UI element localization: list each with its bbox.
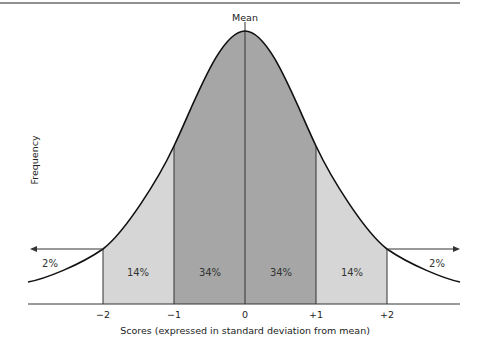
region-plus1-plus2 xyxy=(316,0,387,304)
x-tick-minus1: −1 xyxy=(167,309,181,320)
right-arrow-head-icon xyxy=(453,246,460,252)
y-axis-label: Frequency xyxy=(29,135,40,184)
x-axis-label: Scores (expressed in standard deviation … xyxy=(120,325,370,336)
x-tick-0: 0 xyxy=(242,309,248,320)
x-tick-plus2: +2 xyxy=(380,309,394,320)
region-label-left-tail: 2% xyxy=(42,258,58,269)
region-label-0-plus1: 34% xyxy=(270,267,292,278)
region-label-right-tail: 2% xyxy=(429,258,445,269)
region-minus2-minus1 xyxy=(103,0,174,304)
region-label-plus1-plus2: 14% xyxy=(341,267,363,278)
x-tick-minus2: −2 xyxy=(96,309,110,320)
region-label-minus1-0: 34% xyxy=(199,267,221,278)
x-tick-plus1: +1 xyxy=(309,309,323,320)
left-arrow-head-icon xyxy=(30,246,37,252)
region-label-minus2-minus1: 14% xyxy=(127,267,149,278)
normal-distribution-chart: 2% 14% 34% 34% 14% 2% −2 −1 0 +1 +2 Scor… xyxy=(0,0,477,346)
mean-annotation: Mean xyxy=(232,12,258,23)
